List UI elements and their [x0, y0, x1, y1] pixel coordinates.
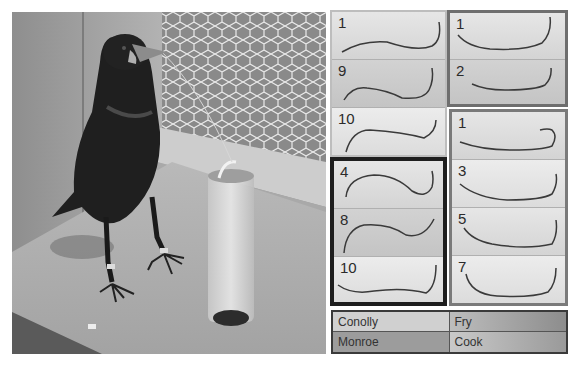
hooked-wire-icon	[332, 108, 445, 155]
wire-cell: 9	[332, 59, 445, 107]
legend-cell-fry: Fry	[450, 312, 567, 332]
wire-panel-conolly: 1 9 10	[330, 10, 447, 157]
hooked-wire-icon	[452, 160, 565, 207]
hooked-wire-icon	[452, 256, 565, 303]
wire-cell: 1	[452, 112, 565, 159]
wire-cell: 1	[332, 12, 445, 59]
hooked-wire-icon	[332, 12, 445, 59]
wire-cell: 2	[450, 59, 565, 104]
wire-cell: 10	[334, 256, 443, 302]
hooked-wire-icon	[334, 257, 443, 302]
hooked-wire-icon	[332, 60, 445, 107]
bird-legend-table: Conolly Fry Monroe Cook	[331, 310, 568, 354]
legend-cell-cook: Cook	[450, 332, 567, 352]
wire-cell: 1	[450, 13, 565, 59]
hooked-wire-icon	[334, 161, 443, 208]
wire-cell: 3	[452, 159, 565, 207]
rook-photograph	[12, 12, 326, 354]
hooked-wire-icon	[334, 209, 443, 256]
hooked-wire-icon	[450, 13, 565, 59]
wire-cell: 10	[332, 107, 445, 155]
wire-panel-cook: 1 3 5 7	[449, 109, 568, 306]
wire-cell: 7	[452, 255, 565, 303]
hooked-wire-icon	[452, 112, 565, 159]
legend-cell-conolly: Conolly	[333, 312, 450, 332]
hooked-wire-icon	[452, 208, 565, 255]
hooked-wire-icon	[450, 60, 565, 104]
wire-cell: 8	[334, 208, 443, 256]
wire-cell: 4	[334, 161, 443, 208]
legend-cell-monroe: Monroe	[333, 332, 450, 352]
wire-panel-fry: 1 2	[447, 10, 568, 107]
rook-scene-illustration	[12, 12, 326, 354]
wire-cell: 5	[452, 207, 565, 255]
wire-panel-monroe: 4 8 10	[330, 157, 447, 306]
